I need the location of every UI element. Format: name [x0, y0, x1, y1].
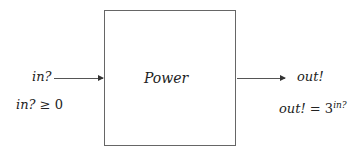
postcondition-op: = — [310, 101, 321, 116]
process-label: Power — [144, 70, 188, 86]
precondition-op: ≥ — [40, 97, 51, 112]
precondition-val: 0 — [55, 97, 63, 112]
precondition-var: in? — [16, 97, 36, 112]
output-postcondition: out! = 3in? — [279, 100, 347, 116]
output-label: out! — [297, 69, 324, 84]
input-arrow — [54, 78, 103, 79]
output-arrow — [237, 78, 285, 79]
postcondition-exp: in? — [333, 100, 347, 110]
input-label: in? — [32, 69, 52, 84]
postcondition-base: 3 — [325, 101, 333, 116]
input-precondition: in? ≥ 0 — [16, 97, 63, 112]
postcondition-var: out! — [279, 101, 306, 116]
